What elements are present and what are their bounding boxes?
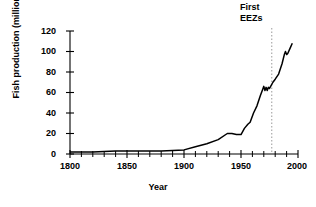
fish-production-chart: Fish production (million t) 120 100 80 6…	[0, 0, 316, 207]
axis-lines	[70, 31, 298, 154]
data-series-line	[70, 43, 292, 152]
plot-area	[0, 0, 316, 207]
